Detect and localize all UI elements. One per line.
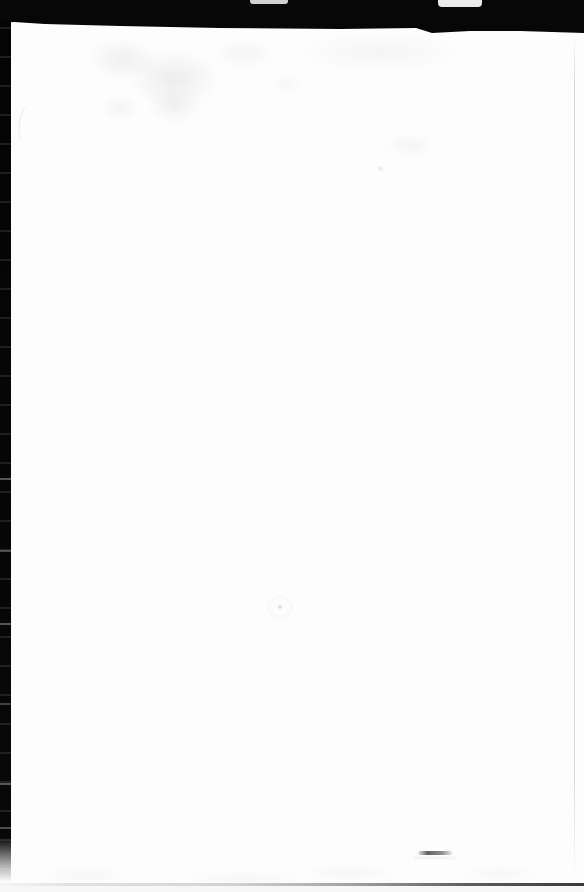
stain-smudge <box>212 38 276 70</box>
left-scan-border <box>0 0 11 882</box>
pencil-dash-echo <box>414 857 456 859</box>
stain-smudge <box>300 32 460 72</box>
scan-streak <box>0 783 11 785</box>
pencil-dash-mark <box>418 851 452 855</box>
scan-streak <box>0 827 11 829</box>
top-border-notch <box>250 0 288 4</box>
stain-smudge <box>40 868 130 882</box>
stain-smudge <box>300 866 400 880</box>
stain-smudge <box>100 94 138 122</box>
scan-streak <box>0 550 11 552</box>
bottom-below-strip <box>0 886 584 892</box>
stain-smudge <box>148 88 202 124</box>
scan-streak <box>0 478 11 480</box>
scan-streak <box>0 623 11 625</box>
page-right-edge-line <box>574 33 575 882</box>
stain-smudge <box>272 74 302 92</box>
scanned-page <box>0 0 584 892</box>
dust-speck-ring <box>268 596 292 618</box>
page-surface <box>0 0 584 892</box>
stain-smudge <box>460 868 540 880</box>
scan-streak <box>0 703 11 705</box>
dust-speck <box>377 165 384 172</box>
top-border-notch <box>438 0 482 7</box>
stain-smudge <box>384 134 436 156</box>
